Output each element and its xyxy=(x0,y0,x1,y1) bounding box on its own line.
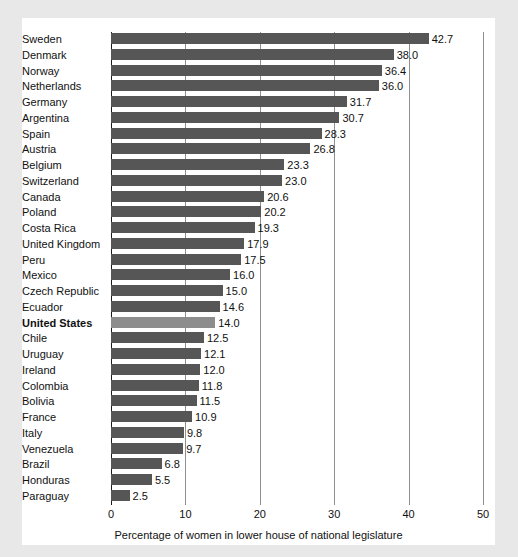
bar-row: United Kingdom17.9 xyxy=(22,237,495,253)
category-label: United States xyxy=(22,317,102,330)
bar-value-label: 15.0 xyxy=(226,285,247,297)
category-label: Ireland xyxy=(22,364,102,377)
bar xyxy=(111,128,322,139)
bar-row: Costa Rica19.3 xyxy=(22,221,495,237)
bar-value-label: 36.0 xyxy=(382,80,403,92)
bar-row: Uruguay12.1 xyxy=(22,347,495,363)
bar-row: Brazil6.8 xyxy=(22,457,495,473)
bar xyxy=(111,222,255,233)
bar-value-label: 6.8 xyxy=(165,458,180,470)
category-label: Ecuador xyxy=(22,301,102,314)
bar xyxy=(111,175,282,186)
category-label: Poland xyxy=(22,206,102,219)
category-label: Peru xyxy=(22,254,102,267)
x-axis-tick-label: 10 xyxy=(170,508,200,520)
bar xyxy=(111,427,184,438)
category-label: Venezuela xyxy=(22,443,102,456)
category-label: Switzerland xyxy=(22,175,102,188)
category-label: Sweden xyxy=(22,33,102,46)
category-label: Czech Republic xyxy=(22,285,102,298)
bar-value-label: 10.9 xyxy=(195,411,216,423)
category-label: Colombia xyxy=(22,380,102,393)
bar xyxy=(111,317,215,328)
bar-value-label: 9.8 xyxy=(187,427,202,439)
bar xyxy=(111,490,130,501)
bar xyxy=(111,96,347,107)
bar-value-label: 14.0 xyxy=(218,317,239,329)
bar xyxy=(111,80,379,91)
bar-row: Honduras5.5 xyxy=(22,473,495,489)
bar-row: Chile12.5 xyxy=(22,331,495,347)
bar xyxy=(111,285,223,296)
bar-row: United States14.0 xyxy=(22,316,495,332)
bar-row: Norway36.4 xyxy=(22,64,495,80)
bar-row: Spain28.3 xyxy=(22,127,495,143)
bar xyxy=(111,143,310,154)
category-label: Austria xyxy=(22,143,102,156)
category-label: Germany xyxy=(22,96,102,109)
bar-value-label: 30.7 xyxy=(342,112,363,124)
bar-row: Austria26.8 xyxy=(22,142,495,158)
x-axis-tick-label: 20 xyxy=(245,508,275,520)
bar-row: Germany31.7 xyxy=(22,95,495,111)
bar-value-label: 19.3 xyxy=(258,222,279,234)
bar-value-label: 9.7 xyxy=(186,443,201,455)
bar xyxy=(111,411,192,422)
bar-row: Argentina30.7 xyxy=(22,111,495,127)
bar xyxy=(111,65,382,76)
bar-value-label: 31.7 xyxy=(350,96,371,108)
bar-value-label: 2.5 xyxy=(133,490,148,502)
bar-row: Mexico16.0 xyxy=(22,268,495,284)
category-label: Denmark xyxy=(22,49,102,62)
bar xyxy=(111,458,162,469)
category-label: Chile xyxy=(22,332,102,345)
bar xyxy=(111,254,241,265)
bar-value-label: 26.8 xyxy=(313,143,334,155)
bar-value-label: 14.6 xyxy=(223,301,244,313)
x-axis-tick-label: 30 xyxy=(319,508,349,520)
bar-value-label: 12.1 xyxy=(204,348,225,360)
bar-value-label: 12.5 xyxy=(207,332,228,344)
bar xyxy=(111,364,200,375)
bar-value-label: 11.5 xyxy=(200,395,221,407)
category-label: United Kingdom xyxy=(22,238,102,251)
bar xyxy=(111,49,394,60)
category-label: Norway xyxy=(22,65,102,78)
bar xyxy=(111,33,429,44)
category-label: Honduras xyxy=(22,474,102,487)
bar xyxy=(111,332,204,343)
x-axis-tick-label: 50 xyxy=(468,508,498,520)
bar-row: Ecuador14.6 xyxy=(22,300,495,316)
bar-row: Ireland12.0 xyxy=(22,363,495,379)
bar-row: Venezuela9.7 xyxy=(22,442,495,458)
bar xyxy=(111,238,244,249)
category-label: Italy xyxy=(22,427,102,440)
bar-row: Belgium23.3 xyxy=(22,158,495,174)
bar xyxy=(111,269,230,280)
bar-value-label: 5.5 xyxy=(155,474,170,486)
category-label: France xyxy=(22,411,102,424)
bar xyxy=(111,112,339,123)
bar-row: Switzerland23.0 xyxy=(22,174,495,190)
bar-value-label: 38.0 xyxy=(397,49,418,61)
bar-value-label: 17.5 xyxy=(244,254,265,266)
category-label: Bolivia xyxy=(22,395,102,408)
bar-row: Colombia11.8 xyxy=(22,379,495,395)
bar-row: Paraguay2.5 xyxy=(22,489,495,505)
bar xyxy=(111,191,264,202)
bar xyxy=(111,474,152,485)
chart-figure: Sweden42.7Denmark38.0Norway36.4Netherlan… xyxy=(22,18,495,545)
category-label: Brazil xyxy=(22,458,102,471)
bar-value-label: 11.8 xyxy=(202,380,223,392)
x-axis-tick-label: 0 xyxy=(96,508,126,520)
bar-value-label: 28.3 xyxy=(325,128,346,140)
bar-row: Canada20.6 xyxy=(22,190,495,206)
bar-value-label: 36.4 xyxy=(385,65,406,77)
bar xyxy=(111,348,201,359)
bar-value-label: 42.7 xyxy=(432,33,453,45)
x-axis-title: Percentage of women in lower house of na… xyxy=(22,529,495,542)
bar-row: Denmark38.0 xyxy=(22,48,495,64)
category-label: Mexico xyxy=(22,269,102,282)
bar xyxy=(111,395,197,406)
bar-row: Peru17.5 xyxy=(22,253,495,269)
